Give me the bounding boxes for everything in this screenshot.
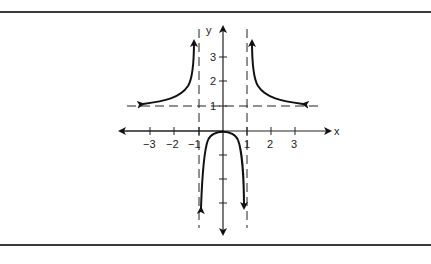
x-tick-label: 3 xyxy=(291,138,297,150)
x-tick-label: −3 xyxy=(143,138,156,150)
x-tick-label: −2 xyxy=(166,138,179,150)
graph: x y −3 −2 −1 1 2 3 1 2 3 xyxy=(0,0,431,264)
x-tick-label: −1 xyxy=(188,138,201,150)
y-tick-label: 3 xyxy=(210,51,216,63)
y-tick-label: 2 xyxy=(210,75,216,87)
asymptotes xyxy=(127,29,322,228)
left-branch-curve xyxy=(143,41,194,104)
right-branch-curve xyxy=(252,41,303,104)
x-tick-label: 2 xyxy=(267,138,273,150)
x-tick-label: 1 xyxy=(244,138,250,150)
x-axis-label: x xyxy=(334,125,340,137)
y-tick-label: 1 xyxy=(210,100,216,112)
y-axis-label: y xyxy=(206,24,212,36)
